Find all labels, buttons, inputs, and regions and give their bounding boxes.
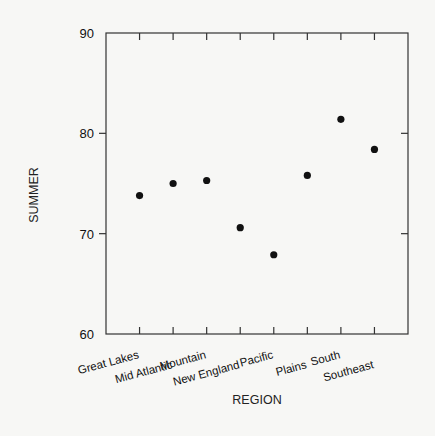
y-tick-label: 60 [80,327,94,342]
scatter-chart: 60708090 Great LakesMid AtlanticMountain… [0,0,435,436]
y-tick-label: 70 [80,227,94,242]
data-point [270,251,277,258]
plot-frame [106,33,408,334]
x-axis-title: REGION [232,393,281,407]
y-tick-label: 80 [80,126,94,141]
y-tick-label: 90 [80,26,94,41]
x-tick-label: South [309,348,341,367]
data-point [304,172,311,179]
data-point [136,192,143,199]
x-tick-label: Pacific [238,348,274,368]
data-point [371,146,378,153]
data-points [136,116,378,259]
data-point [203,177,210,184]
data-point [170,180,177,187]
y-axis-title: SUMMER [27,167,41,223]
data-point [237,224,244,231]
x-tick-label: Plains [274,358,308,378]
y-axis: 60708090 [80,26,408,342]
data-point [337,116,344,123]
